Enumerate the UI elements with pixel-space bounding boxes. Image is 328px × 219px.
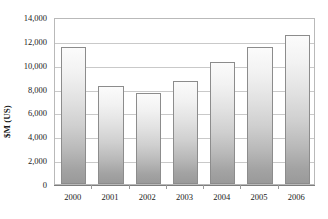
y-axis-tick-label: 4,000 (28, 132, 47, 142)
bar (98, 86, 123, 184)
x-axis-tick-label: 2004 (213, 192, 230, 202)
x-axis-tick-mark (129, 185, 130, 189)
y-axis-tick-label: 12,000 (24, 37, 47, 47)
x-axis-tick-label: 2001 (101, 192, 118, 202)
x-axis-tick-label: 2005 (251, 192, 268, 202)
x-axis-tick-mark (278, 185, 279, 189)
bar (136, 93, 161, 184)
y-axis-tick-label: 2,000 (28, 156, 47, 166)
x-axis-tick-mark (203, 185, 204, 189)
x-axis-tick-label: 2003 (176, 192, 193, 202)
bar-chart: $M (US) 14,00012,00010,0008,0006,0004,00… (0, 0, 328, 219)
bar (61, 47, 86, 184)
bar (247, 47, 272, 184)
x-axis-tick-mark (91, 185, 92, 189)
y-axis-tick-label: 0 (43, 180, 47, 190)
plot-area (54, 18, 315, 185)
x-axis-tick-label: 2002 (139, 192, 156, 202)
x-axis-tick-label: 2000 (64, 192, 81, 202)
y-axis-tick-labels: 14,00012,00010,0008,0006,0004,0002,0000 (14, 18, 50, 185)
x-axis-tick-mark (240, 185, 241, 189)
y-axis-tick-label: 14,000 (24, 13, 47, 23)
y-axis-tick-label: 10,000 (24, 61, 47, 71)
bar (210, 62, 235, 184)
x-axis-tick-label: 2006 (288, 192, 305, 202)
bars-layer (55, 19, 314, 184)
bar (285, 35, 310, 184)
y-axis-tick-label: 8,000 (28, 85, 47, 95)
x-axis-tick-labels: 2000200120022003200420052006 (54, 192, 315, 208)
x-axis-tick-mark (166, 185, 167, 189)
bar (173, 81, 198, 184)
y-axis-tick-label: 6,000 (28, 108, 47, 118)
x-axis-line (54, 185, 315, 186)
